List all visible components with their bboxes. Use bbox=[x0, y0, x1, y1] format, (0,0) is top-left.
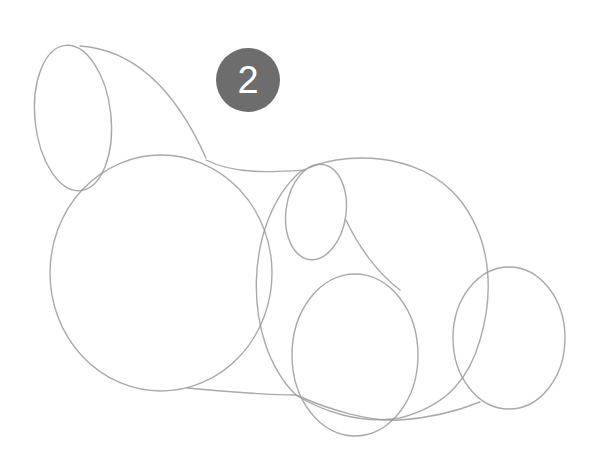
neck-line bbox=[206, 160, 305, 172]
hind-foot-shape bbox=[292, 274, 418, 436]
ear-back-curve bbox=[80, 46, 206, 158]
belly-line bbox=[187, 388, 480, 420]
front-leg-curve bbox=[346, 220, 400, 290]
rabbit-sketch bbox=[0, 0, 599, 473]
step-number-badge: 2 bbox=[216, 48, 280, 112]
tail-shape bbox=[453, 267, 565, 409]
step-number: 2 bbox=[237, 61, 258, 99]
body-shape bbox=[256, 158, 488, 420]
front-leg-shape bbox=[280, 160, 353, 263]
